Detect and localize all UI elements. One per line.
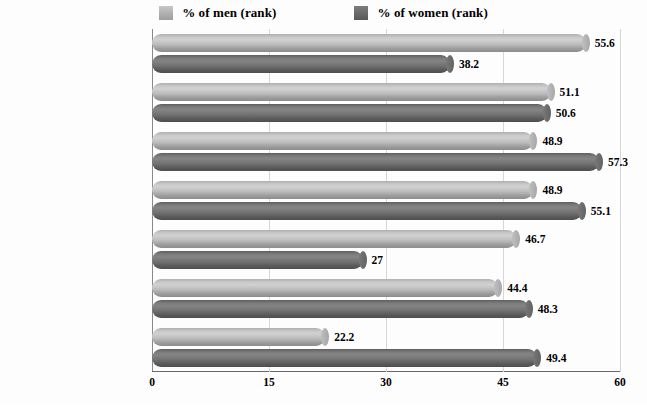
bar-men <box>152 83 551 101</box>
bar-end-cap <box>525 300 533 318</box>
bar-end-cap <box>446 55 454 73</box>
bar-end-cap <box>494 279 502 297</box>
bar-end-cap <box>543 104 551 122</box>
x-tick-label: 45 <box>497 376 509 388</box>
bar-value-label: 55.6 <box>595 37 615 49</box>
bar-end-cap <box>512 230 520 248</box>
legend-label-men: % of men (rank) <box>182 5 276 21</box>
bar-value-label: 27 <box>372 254 384 266</box>
bar-end-cap <box>533 349 541 367</box>
bar-women <box>152 55 450 73</box>
bar-end-cap <box>321 328 329 346</box>
bar-men <box>152 132 533 150</box>
bar-end-cap <box>582 34 590 52</box>
bar-men <box>152 328 325 346</box>
bar-value-label: 50.6 <box>556 107 576 119</box>
bar-women <box>152 251 363 269</box>
bar-men <box>152 34 586 52</box>
bar-end-cap <box>529 181 537 199</box>
legend-label-women: % of women (rank) <box>377 5 487 21</box>
plot-area: 55.638.251.150.648.957.348.955.146.72744… <box>152 29 620 372</box>
bar-women <box>152 202 582 220</box>
bar-women <box>152 153 599 171</box>
bar-value-label: 51.1 <box>560 86 580 98</box>
x-tick-label: 60 <box>614 376 626 388</box>
gridline <box>269 29 270 372</box>
x-tick-label: 0 <box>149 376 155 388</box>
bar-value-label: 55.1 <box>591 205 611 217</box>
bar-end-cap <box>595 153 603 171</box>
legend-item-men: % of men (rank) <box>159 5 276 21</box>
bar-value-label: 48.9 <box>542 135 562 147</box>
women-color-swatch <box>354 6 368 20</box>
gridline <box>503 29 504 372</box>
bar-end-cap <box>529 132 537 150</box>
bar-men <box>152 230 516 248</box>
bar-value-label: 57.3 <box>608 156 628 168</box>
bar-value-label: 46.7 <box>525 233 545 245</box>
bar-end-cap <box>578 202 586 220</box>
x-tick-label: 30 <box>380 376 392 388</box>
gridline <box>386 29 387 372</box>
bar-men <box>152 181 533 199</box>
bar-men <box>152 279 498 297</box>
bar-value-label: 49.4 <box>546 352 566 364</box>
legend-item-women: % of women (rank) <box>354 5 487 21</box>
bar-end-cap <box>547 83 555 101</box>
x-tick-label: 15 <box>263 376 275 388</box>
chart-figure: % of men (rank) % of women (rank) 55.638… <box>0 0 647 406</box>
men-color-swatch <box>159 6 173 20</box>
bar-end-cap <box>359 251 367 269</box>
bar-value-label: 48.9 <box>542 184 562 196</box>
y-axis-line <box>152 29 153 372</box>
bar-value-label: 22.2 <box>334 331 354 343</box>
bar-women <box>152 349 537 367</box>
bar-value-label: 38.2 <box>459 58 479 70</box>
bar-women <box>152 104 547 122</box>
chart-legend: % of men (rank) % of women (rank) <box>0 0 647 26</box>
gridline <box>620 29 621 372</box>
bar-value-label: 48.3 <box>538 303 558 315</box>
bar-value-label: 44.4 <box>507 282 527 294</box>
bar-women <box>152 300 529 318</box>
